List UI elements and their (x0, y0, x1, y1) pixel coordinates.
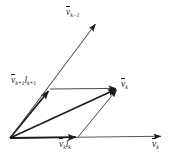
overbar-icon (59, 138, 63, 139)
label-l-k-plus-1-subscript: k+1 (27, 80, 36, 86)
label-v-k-resultant-subscript: k (125, 84, 128, 90)
label-v-k-l-k: vklk (59, 140, 71, 151)
overbar-icon (152, 138, 156, 139)
label-v-k-minus-1: vk−1 (66, 8, 79, 19)
v-symbol-overbar: v (121, 80, 125, 90)
label-v-k-resultant: vk (121, 80, 128, 91)
v-symbol-overbar: v (11, 76, 15, 86)
parallelogram-top-side (50, 88, 116, 89)
label-v-k-plus-1-subscript: k+1 (15, 80, 24, 86)
v-k-l-k-arrow (10, 137, 76, 138)
overbar-icon (11, 74, 15, 75)
overbar-icon (121, 78, 125, 79)
label-l-k-subscript: k (68, 144, 71, 150)
v-k-resultant-arrow (10, 89, 116, 138)
label-v-k-axis-subscript: k (156, 144, 159, 150)
v-symbol-overbar: v (59, 140, 63, 150)
label-v-k-plus-1-l-k-plus-1: vk+1lk+1 (11, 76, 36, 87)
v-symbol-overbar: v (152, 140, 156, 150)
overbar-icon (66, 6, 70, 7)
label-v-k-minus-1-subscript: k−1 (70, 12, 79, 18)
vector-diagram-figure: vk−1 vk+1lk+1 vk vklk vk (0, 0, 173, 159)
v-symbol-overbar: v (66, 8, 70, 18)
label-v-k-axis: vk (152, 140, 159, 151)
